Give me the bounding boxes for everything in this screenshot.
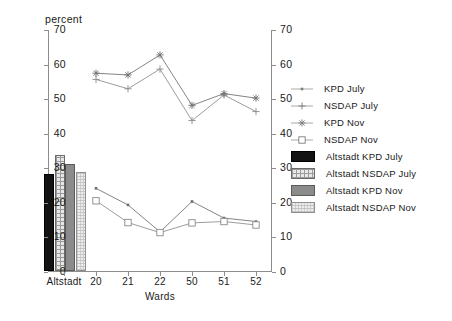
y-tick-mark-right (272, 99, 276, 100)
legend-marker-plus-icon (289, 100, 315, 112)
plot-area (48, 30, 272, 272)
legend-item-label: KPD July (324, 83, 365, 94)
legend-swatch-dot-light (291, 202, 315, 213)
marker-plus (298, 102, 305, 109)
marker-dot (301, 87, 304, 90)
y-tick-label-right: 60 (280, 59, 304, 70)
x-tick-label: 22 (154, 276, 166, 287)
marker-square (299, 136, 305, 142)
y-tick-label-left: 0 (42, 266, 66, 277)
legend-item-label: Altstadt NSDAP July (326, 168, 416, 179)
y-tick-label-right: 0 (280, 266, 304, 277)
legend-marker-dot-icon (289, 83, 315, 95)
legend-item[interactable]: Altstadt KPD July (289, 148, 449, 165)
x-tick-label: Altstadt (47, 276, 82, 287)
y-tick-label-left: 70 (42, 24, 66, 35)
y-tick-mark-right (272, 272, 276, 273)
legend-item[interactable]: Altstadt KPD Nov (289, 182, 449, 199)
bar-solid-gray (65, 164, 75, 271)
legend-item[interactable]: KPD Nov (289, 114, 449, 131)
legend-marker-star-icon (289, 117, 315, 129)
legend-item[interactable]: NSDAP Nov (289, 131, 449, 148)
legend-item[interactable]: KPD July (289, 80, 449, 97)
y-tick-label-left: 40 (42, 128, 66, 139)
chart-container: percent 010203040506070 010203040506070 … (0, 0, 452, 321)
y-tick-label-left: 10 (42, 231, 66, 242)
x-tick-label: 20 (90, 276, 102, 287)
legend-swatch-solid-gray (291, 185, 315, 196)
legend-item-label: KPD Nov (324, 117, 364, 128)
x-tick-label: 51 (218, 276, 230, 287)
legend-item-label: NSDAP July (324, 100, 378, 111)
legend-swatch-check-light (291, 168, 315, 179)
y-tick-mark-right (272, 30, 276, 31)
bar-dot-light (76, 172, 86, 271)
legend-item[interactable]: Altstadt NSDAP Nov (289, 199, 449, 216)
x-tick-label: 52 (250, 276, 262, 287)
legend-item-label: Altstadt NSDAP Nov (326, 202, 416, 213)
bar-solid-black (44, 174, 54, 271)
y-tick-mark-right (272, 65, 276, 66)
legend-item-label: Altstadt KPD Nov (326, 185, 403, 196)
legend-item-label: Altstadt KPD July (326, 151, 403, 162)
y-tick-label-left: 50 (42, 93, 66, 104)
y-tick-label-left: 20 (42, 197, 66, 208)
legend-item[interactable]: Altstadt NSDAP July (289, 165, 449, 182)
y-tick-label-left: 60 (42, 59, 66, 70)
y-tick-mark-right (272, 237, 276, 238)
x-tick-label: 21 (122, 276, 134, 287)
legend-item[interactable]: NSDAP July (289, 97, 449, 114)
y-tick-label-right: 70 (280, 24, 304, 35)
legend-marker-square-icon (289, 134, 315, 146)
y-tick-label-left: 30 (42, 162, 66, 173)
legend-item-label: NSDAP Nov (324, 134, 378, 145)
x-tick-label: 50 (186, 276, 198, 287)
y-tick-label-right: 10 (280, 231, 304, 242)
chart-legend: KPD JulyNSDAP JulyKPD NovNSDAP NovAltsta… (289, 80, 449, 216)
marker-star (298, 119, 305, 126)
x-axis-title: Wards (0, 291, 320, 302)
legend-swatch-solid-black (291, 151, 315, 162)
y-tick-mark-right (272, 203, 276, 204)
y-tick-mark-right (272, 134, 276, 135)
y-tick-mark-right (272, 168, 276, 169)
